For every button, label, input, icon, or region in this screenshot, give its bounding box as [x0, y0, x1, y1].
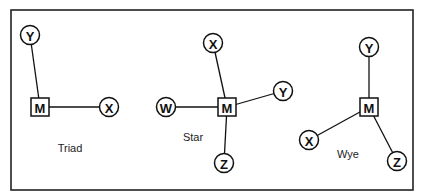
- wye-node-z: Z: [388, 152, 407, 171]
- svg-text:M: M: [222, 101, 233, 116]
- wye-hub-node: M: [360, 98, 378, 116]
- svg-text:X: X: [105, 101, 114, 116]
- svg-text:W: W: [160, 101, 173, 116]
- triad-caption: Triad: [58, 142, 83, 154]
- triad-hub-node: M: [31, 98, 49, 116]
- svg-text:Y: Y: [26, 29, 35, 44]
- svg-text:M: M: [35, 101, 46, 116]
- wye-node-x: X: [300, 131, 319, 150]
- star-node-x: X: [204, 34, 223, 53]
- triad-node-y: Y: [21, 26, 40, 45]
- svg-text:Z: Z: [393, 155, 401, 170]
- svg-text:X: X: [305, 134, 314, 149]
- svg-text:Z: Z: [220, 157, 228, 172]
- star-caption: Star: [183, 131, 204, 143]
- triad-edge-y: [30, 35, 40, 107]
- svg-text:X: X: [209, 37, 218, 52]
- svg-text:M: M: [364, 101, 375, 116]
- wye-caption: Wye: [337, 148, 359, 160]
- network-topology-diagram: MYXMXYWZMYXZ TriadStarWye: [0, 0, 423, 196]
- svg-text:Y: Y: [279, 85, 288, 100]
- star-node-z: Z: [215, 154, 234, 173]
- star-node-y: Y: [274, 82, 293, 101]
- triad-node-x: X: [100, 98, 119, 117]
- wye-node-y: Y: [360, 38, 379, 57]
- star-hub-node: M: [218, 98, 236, 116]
- svg-text:Y: Y: [365, 41, 374, 56]
- star-node-w: W: [157, 98, 176, 117]
